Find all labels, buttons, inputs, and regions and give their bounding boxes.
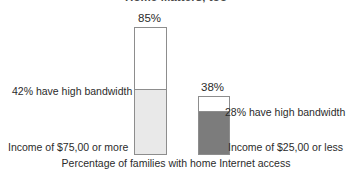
plot-area: 85% 38% 42% have high bandwidth 28% have… (0, 0, 352, 174)
annotation-bandwidth-low-income: 28% have high bandwidth (225, 106, 345, 118)
value-label-low-income: 38% (201, 81, 224, 93)
bar-segment-high-income-remaining (135, 28, 166, 89)
category-label-low-income: Income of $25,00 or less (228, 141, 343, 153)
category-label-high-income: Income of $75,00 or more (8, 141, 128, 153)
bar-high-income[interactable] (134, 27, 167, 155)
chart-container: Home Matters, too 85% 38% 42% have high … (0, 0, 352, 174)
bar-low-income[interactable] (198, 96, 230, 155)
value-label-high-income: 85% (138, 12, 161, 24)
chart-caption: Percentage of families with home Interne… (0, 157, 352, 169)
annotation-bandwidth-high-income: 42% have high bandwidth (12, 85, 132, 97)
bar-segment-high-income-bandwidth (135, 89, 166, 154)
